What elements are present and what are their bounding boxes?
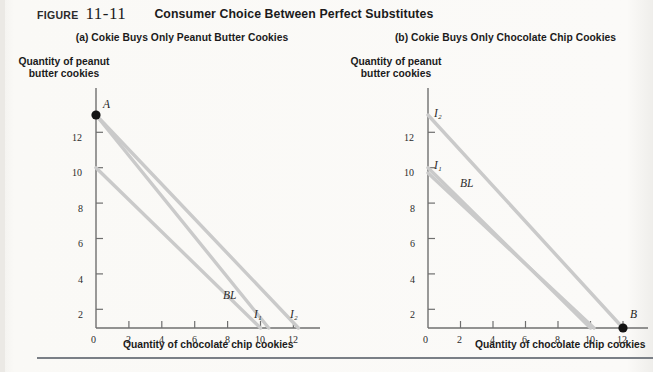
panel-b-xtick-10: 10 [585, 334, 595, 345]
figure-title: Consumer Choice Between Perfect Substitu… [154, 7, 433, 21]
panel-a-svg [72, 84, 322, 334]
panel-b-xtick-6: 6 [522, 334, 527, 345]
chart-panel-a: (a) Cokie Buys Only Peanut Butter Cookie… [0, 28, 330, 358]
panel-b-xtick-12: 12 [617, 334, 627, 345]
panel-b-xtick-8: 8 [555, 334, 560, 345]
panel-b-ytick-4: 4 [410, 274, 415, 285]
panel-a-subtitle: (a) Cokie Buys Only Peanut Butter Cookie… [0, 32, 330, 43]
panel-a-xtick-10: 10 [255, 334, 265, 345]
panel-a-xtick-6: 6 [192, 334, 197, 345]
panel-b-label-bl: BL [460, 177, 473, 189]
panel-a-xtick-12: 12 [288, 334, 298, 345]
panel-a-xtick-8: 8 [225, 334, 230, 345]
panel-a-ytick-6: 6 [78, 238, 83, 249]
panel-b-xtick-0: 0 [423, 334, 428, 345]
panel-b-plot-area: 12 10 8 6 4 2 0 2 4 6 8 10 12 I₂ I₁ BL B [404, 84, 650, 334]
panel-b-xtick-4: 4 [490, 334, 495, 345]
figure-page: FIGURE 11-11 Consumer Choice Between Per… [0, 0, 653, 372]
panel-a-label-i1: I₁ [254, 308, 262, 320]
panel-a-ytick-8: 8 [78, 203, 83, 214]
panel-b-xtick-2: 2 [457, 334, 462, 345]
panel-b-ytick-8: 8 [410, 203, 415, 214]
panel-a-xtick-0: 0 [91, 334, 96, 345]
panel-b-point-b-marker [618, 323, 627, 332]
panel-a-budget-line [96, 168, 261, 328]
panel-b-indifference-curve-2 [428, 115, 623, 328]
panel-a-point-a-marker [91, 110, 100, 119]
panel-b-ytick-6: 6 [410, 238, 415, 249]
panel-a-plot-area: 12 10 8 6 4 2 0 2 4 6 8 10 12 A BL I₁ I₂ [72, 84, 322, 334]
panel-b-label-i2: I₂ [434, 107, 442, 119]
panel-a-ytick-10: 10 [72, 167, 82, 178]
figure-number: 11-11 [85, 4, 126, 24]
panel-b-budget-line [428, 173, 594, 328]
figure-bottom-rule [37, 357, 653, 359]
panel-b-point-b-label: B [630, 308, 637, 320]
figure-label: FIGURE [37, 9, 78, 21]
panel-a-ytick-2: 2 [78, 309, 83, 320]
panel-a-indifference-curve-1 [96, 115, 269, 328]
panel-b-ytick-12: 12 [404, 132, 414, 143]
panel-b-label-i1: I₁ [434, 159, 442, 171]
panel-a-ytick-12: 12 [72, 132, 82, 143]
panel-b-y-axis-label: Quantity of peanut butter cookies [348, 56, 444, 81]
panel-a-indifference-curve-2 [96, 115, 298, 328]
panel-b-svg [404, 84, 650, 334]
panel-a-y-axis-label: Quantity of peanut butter cookies [16, 56, 112, 81]
panel-b-ytick-10: 10 [404, 167, 414, 178]
panel-a-xtick-2: 2 [126, 334, 131, 345]
panel-a-label-bl: BL [223, 289, 236, 301]
panel-a-x-axis-label: Quantity of chocolate chip cookies [123, 339, 294, 350]
panel-b-subtitle: (b) Cokie Buys Only Chocolate Chip Cooki… [330, 32, 653, 43]
figure-tag: FIGURE 11-11 [37, 4, 126, 24]
panel-a-point-a-label: A [103, 98, 110, 110]
panel-b-ytick-2: 2 [410, 309, 415, 320]
panel-a-label-i2: I₂ [290, 308, 298, 320]
panel-a-xtick-4: 4 [159, 334, 164, 345]
figure-header: FIGURE 11-11 Consumer Choice Between Per… [0, 0, 653, 28]
chart-panel-b: (b) Cokie Buys Only Chocolate Chip Cooki… [330, 28, 653, 358]
panel-a-ytick-4: 4 [78, 274, 83, 285]
